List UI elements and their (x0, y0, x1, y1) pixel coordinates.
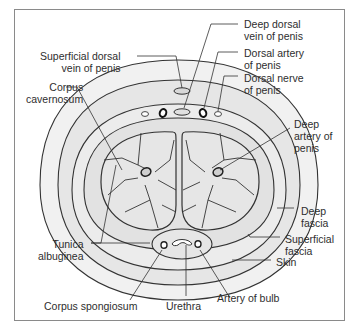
label-dorsal-artery: Dorsal artery of penis (244, 47, 304, 71)
right-dorsal-nerve (215, 112, 222, 117)
label-corpus-cavernosum: Corpus cavernosum (26, 81, 83, 105)
label-corpus-spongiosum: Corpus spongiosum (44, 300, 137, 312)
label-skin: Skin (276, 256, 296, 268)
right-artery-of-bulb (195, 241, 201, 248)
label-superficial-fascia: Superficial fascia (285, 233, 334, 257)
label-urethra: Urethra (166, 300, 201, 312)
label-superficial-dorsal-vein: Superficial dorsal vein of penis (40, 50, 121, 74)
label-dorsal-nerve: Dorsal nerve of penis (244, 72, 304, 96)
label-deep-fascia: Deep fascia (301, 205, 328, 229)
label-deep-artery: Deep artery of penis (294, 118, 333, 154)
label-artery-of-bulb: Artery of bulb (217, 292, 279, 304)
label-tunica-albuginea: Tunica albuginea (38, 238, 84, 262)
left-artery-of-bulb (161, 242, 167, 249)
deep-dorsal-vein (174, 109, 190, 115)
label-deep-dorsal-vein: Deep dorsal vein of penis (244, 18, 303, 42)
superficial-dorsal-vein (174, 88, 190, 94)
left-dorsal-nerve (142, 112, 149, 117)
